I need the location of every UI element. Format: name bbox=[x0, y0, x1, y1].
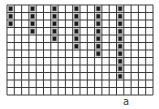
grid-marker bbox=[75, 14, 78, 18]
grid-marker bbox=[119, 74, 122, 78]
grid-marker bbox=[97, 44, 100, 48]
grid-marker bbox=[75, 7, 78, 11]
grid-marker bbox=[31, 22, 34, 26]
grid-marker bbox=[119, 7, 122, 11]
grid-marker bbox=[9, 14, 12, 18]
grid-marker bbox=[97, 37, 100, 41]
grid-marker bbox=[97, 52, 100, 56]
grid-lines bbox=[7, 5, 153, 95]
grid-marker bbox=[75, 37, 78, 41]
grid-board bbox=[0, 0, 159, 109]
grid-marker bbox=[75, 22, 78, 26]
grid-marker bbox=[119, 67, 122, 71]
grid-marker bbox=[97, 14, 100, 18]
grid-marker bbox=[119, 52, 122, 56]
grid-marker bbox=[97, 7, 100, 11]
grid-marker bbox=[9, 7, 12, 11]
grid-marker bbox=[119, 44, 122, 48]
grid-marker bbox=[119, 29, 122, 33]
grid-marker bbox=[119, 59, 122, 63]
caption-label: a bbox=[120, 96, 132, 108]
grid-marker bbox=[31, 7, 34, 11]
grid-marker bbox=[31, 29, 34, 33]
grid-marker bbox=[75, 44, 78, 48]
grid-marker bbox=[53, 22, 56, 26]
grid-marker bbox=[97, 29, 100, 33]
grid-marker bbox=[119, 14, 122, 18]
grid-marker bbox=[31, 14, 34, 18]
grid-marker bbox=[119, 22, 122, 26]
grid-marker bbox=[53, 14, 56, 18]
grid-marker bbox=[75, 29, 78, 33]
grid-marker bbox=[53, 7, 56, 11]
grid-marker bbox=[53, 29, 56, 33]
grid-marker bbox=[9, 22, 12, 26]
grid-marker bbox=[97, 22, 100, 26]
grid-marker bbox=[53, 37, 56, 41]
grid-marker bbox=[119, 37, 122, 41]
